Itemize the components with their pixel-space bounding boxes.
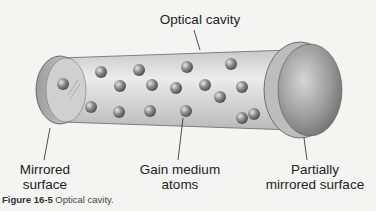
left-mirror-face xyxy=(46,58,86,122)
right-mirror-face xyxy=(278,44,342,136)
label-partially-mirrored-surface: Partially mirrored surface xyxy=(255,162,375,192)
figure-caption: Figure 16-5 Optical cavity. xyxy=(2,194,114,205)
label-mirrored-surface: Mirrored surface xyxy=(10,162,80,192)
leader-mirrored-surface xyxy=(44,128,50,160)
figure-number: Figure 16-5 xyxy=(2,194,53,205)
leader-optical-cavity xyxy=(194,30,200,50)
figure-caption-text: Optical cavity. xyxy=(55,194,113,205)
label-gain-medium-atoms: Gain medium atoms xyxy=(130,162,230,192)
leader-partial-mirror xyxy=(304,138,307,160)
label-optical-cavity: Optical cavity xyxy=(150,12,250,27)
